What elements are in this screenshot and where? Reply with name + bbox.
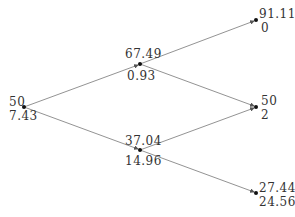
uu-value: 0	[261, 22, 269, 34]
node-dd	[254, 191, 258, 195]
node-d	[138, 148, 142, 152]
node-ud	[254, 105, 258, 109]
ud-value: 2	[261, 109, 269, 121]
nodes	[22, 18, 258, 195]
node-u	[138, 62, 142, 66]
u-price: 67.49	[125, 48, 162, 60]
tree-diagram	[0, 0, 295, 217]
node-uu	[254, 18, 258, 22]
d-value: 14.96	[125, 155, 162, 167]
ud-price: 50	[261, 95, 277, 107]
root-price: 50	[9, 96, 25, 108]
dd-price: 27.44	[259, 182, 295, 194]
edge-root-d	[24, 107, 138, 149]
dd-value: 24.56	[259, 196, 295, 208]
u-value: 0.93	[127, 70, 156, 82]
uu-price: 91.11	[259, 8, 295, 20]
d-price: 37.04	[125, 135, 162, 147]
edge-root-u	[24, 65, 138, 107]
edge-u-ud	[140, 64, 254, 106]
root-value: 7.43	[9, 110, 38, 122]
